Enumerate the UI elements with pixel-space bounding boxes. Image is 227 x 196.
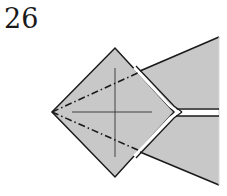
origami-diagram <box>0 0 227 196</box>
